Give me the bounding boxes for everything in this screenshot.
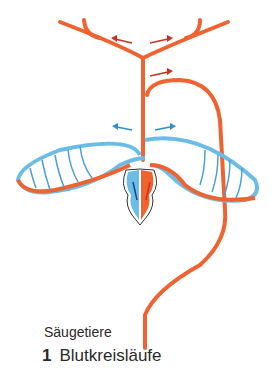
circulatory-diagram bbox=[0, 0, 278, 372]
figure-caption: 1Blutkreisläufe bbox=[42, 346, 162, 366]
heart bbox=[123, 169, 156, 225]
caption-number: 1 bbox=[42, 346, 51, 365]
right-capillary-loop bbox=[145, 138, 257, 200]
caption-text: Blutkreisläufe bbox=[59, 346, 161, 365]
subtitle-label: Säugetiere bbox=[44, 324, 112, 340]
